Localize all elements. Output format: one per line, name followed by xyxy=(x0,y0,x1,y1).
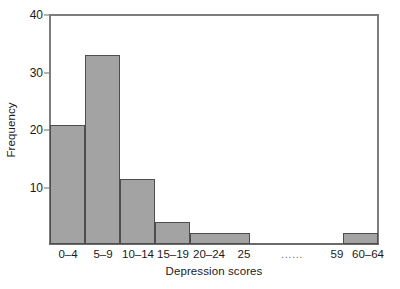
histogram-figure: Frequency 40 30 20 10 0–4 5–9 10 xyxy=(0,0,400,289)
bar-10-14 xyxy=(120,179,155,244)
x-tick-label-59: 59 xyxy=(331,247,344,261)
y-tick-label-20: 20 xyxy=(22,124,43,136)
y-tick-label-30: 30 xyxy=(22,67,43,79)
x-tick-label-60-64: 60–64 xyxy=(352,247,384,261)
bar-60-64 xyxy=(343,233,378,244)
x-tick-label-20-24: 20–24 xyxy=(193,247,225,261)
y-tick-label-40: 40 xyxy=(22,9,43,21)
bar-series xyxy=(49,14,379,245)
x-tick-label-15-19: 15–19 xyxy=(157,247,189,261)
x-tick-label-0-4: 0–4 xyxy=(58,247,77,261)
x-axis-tick-labels: 0–4 5–9 10–14 15–19 20–24 25 ...... 59 6… xyxy=(49,247,379,263)
x-tick-label-5-9: 5–9 xyxy=(93,247,112,261)
x-axis-title: Depression scores xyxy=(49,265,379,277)
x-tick-label-25: 25 xyxy=(238,247,251,261)
plot-area xyxy=(49,14,379,245)
y-axis-title: Frequency xyxy=(0,78,22,182)
y-axis-tick-labels: 40 30 20 10 xyxy=(22,0,43,289)
x-tick-label-10-14: 10–14 xyxy=(122,247,154,261)
x-tick-label-ellipsis: ...... xyxy=(281,247,303,261)
bar-20-24 xyxy=(190,233,250,244)
bar-0-4 xyxy=(50,125,85,244)
y-tick-label-10: 10 xyxy=(22,182,43,194)
bar-5-9 xyxy=(85,55,120,244)
bar-15-19 xyxy=(155,222,190,244)
y-axis-title-text: Frequency xyxy=(5,102,17,157)
